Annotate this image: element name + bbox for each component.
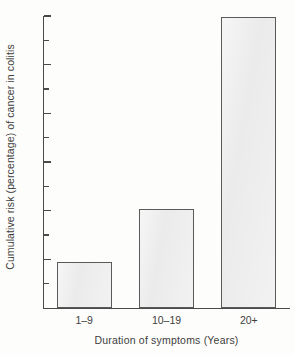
y-axis-major-tick bbox=[44, 210, 51, 211]
y-axis-major-tick bbox=[44, 113, 51, 114]
bar-chart-figure: Cumulative risk (percentage) of cancer i… bbox=[0, 0, 294, 355]
y-axis-major-tick bbox=[44, 64, 51, 65]
x-axis-line bbox=[43, 308, 290, 309]
bar bbox=[57, 262, 112, 308]
plot-area: 1–910–1920+ bbox=[43, 16, 290, 308]
x-axis-title: Duration of symptoms (Years) bbox=[43, 334, 290, 346]
y-axis-major-tick bbox=[44, 161, 51, 162]
y-axis-minor-tick bbox=[44, 40, 49, 41]
y-axis-minor-tick bbox=[44, 137, 49, 138]
x-axis-tick-label: 20+ bbox=[208, 314, 290, 326]
x-axis-tick-label: 10–19 bbox=[125, 314, 207, 326]
bar bbox=[139, 209, 194, 308]
y-axis-minor-tick bbox=[44, 186, 49, 187]
bar-sheen bbox=[58, 263, 111, 307]
y-axis-minor-tick bbox=[44, 283, 49, 284]
y-axis-title: Cumulative risk (percentage) of cancer i… bbox=[2, 2, 18, 312]
y-axis-major-tick bbox=[44, 259, 51, 260]
x-axis-tick-label: 1–9 bbox=[43, 314, 125, 326]
bar-sheen bbox=[140, 210, 193, 307]
bar-sheen bbox=[222, 18, 275, 307]
y-axis-major-tick bbox=[44, 15, 51, 16]
y-axis-minor-tick bbox=[44, 88, 49, 89]
y-axis-minor-tick bbox=[44, 234, 49, 235]
bar bbox=[221, 17, 276, 308]
